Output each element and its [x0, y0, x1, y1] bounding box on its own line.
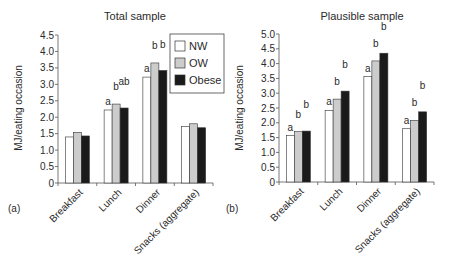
bar-ow-0: [294, 132, 302, 182]
legend-swatch-nw: [175, 41, 185, 51]
significance-letter: b: [373, 38, 379, 49]
y-tick-label: 3.0: [40, 79, 54, 90]
y-tick-label: 4.5: [40, 30, 54, 41]
figure: Total sampleMJ/eating occasion(a)00.51.0…: [0, 0, 450, 276]
bar-nw-0: [65, 137, 73, 183]
legend-label: Obese: [189, 74, 221, 86]
y-tick-label: 3.0: [261, 88, 275, 99]
y-tick-label: 0.5: [261, 162, 275, 173]
bar-obese-3: [198, 128, 206, 183]
x-category-label: Snacks (aggregate): [132, 187, 201, 256]
bar-obese-3: [419, 112, 427, 182]
bar-nw-1: [104, 110, 112, 183]
bar-obese-0: [302, 131, 310, 182]
x-category-label: Snacks (aggregate): [353, 186, 422, 255]
x-category-label: Lunch: [317, 186, 344, 213]
bar-obese-2: [380, 53, 388, 182]
significance-letter: b: [381, 21, 387, 32]
y-tick-label: 2.5: [261, 103, 275, 114]
bar-ow-1: [333, 99, 341, 182]
y-tick-label: 4.0: [261, 58, 275, 69]
bar-ow-2: [151, 63, 159, 183]
chart-panel-b: Plausible sampleMJ/eating occasion(b)00.…: [226, 10, 434, 255]
bar-obese-1: [341, 91, 349, 182]
bar-nw-0: [286, 136, 294, 182]
y-tick-label: 3.5: [261, 73, 275, 84]
x-category-label: Dinner: [355, 185, 384, 214]
legend-swatch-ow: [175, 58, 185, 68]
bar-ow-0: [73, 132, 81, 183]
chart-title: Total sample: [104, 10, 166, 22]
panel-label: (a): [8, 203, 20, 214]
bar-nw-3: [403, 129, 411, 182]
chart-title: Plausible sample: [320, 10, 403, 22]
significance-letter: a: [105, 96, 111, 107]
bar-obese-1: [120, 108, 128, 183]
y-tick-label: 0.5: [40, 161, 54, 172]
y-tick-label: 1.0: [261, 147, 275, 158]
y-axis-label: MJ/eating occasion: [234, 65, 245, 151]
y-tick-label: 2.5: [40, 95, 54, 106]
significance-letter: b: [334, 76, 340, 87]
y-tick-label: 3.5: [40, 62, 54, 73]
significance-letter: a: [326, 96, 332, 107]
x-category-label: Lunch: [96, 187, 123, 214]
significance-letter: a: [365, 63, 371, 74]
significance-letter: a: [144, 63, 150, 74]
y-tick-label: 2.0: [40, 112, 54, 123]
y-tick-label: 1.5: [261, 132, 275, 143]
bar-ow-2: [372, 61, 380, 182]
significance-letter: b: [152, 40, 158, 51]
significance-letter: b: [304, 99, 310, 110]
legend-swatch-obese: [175, 75, 185, 85]
bar-nw-1: [325, 110, 333, 182]
y-axis-label: MJ/eating occasion: [13, 65, 24, 151]
significance-letter: b: [420, 80, 426, 91]
y-tick-label: 4.5: [261, 43, 275, 54]
y-tick-label: 4.0: [40, 46, 54, 57]
significance-letter: a: [288, 122, 294, 133]
significance-letter: ab: [119, 76, 131, 87]
x-category-label: Breakfast: [268, 185, 306, 223]
y-tick-label: 2.0: [261, 117, 275, 128]
bar-nw-2: [143, 77, 151, 183]
bar-ow-3: [190, 124, 198, 183]
bar-obese-0: [81, 136, 89, 183]
bar-ow-3: [411, 120, 419, 182]
bar-obese-2: [159, 71, 167, 183]
bar-chart-figure: Total sampleMJ/eating occasion(a)00.51.0…: [0, 0, 450, 276]
panel-label: (b): [226, 203, 238, 214]
y-tick-label: 1.0: [40, 145, 54, 156]
y-tick-label: 0: [48, 178, 54, 189]
significance-letter: b: [342, 59, 348, 70]
legend-label: OW: [189, 57, 209, 69]
bar-ow-1: [112, 104, 120, 183]
y-tick-label: 1.5: [40, 128, 54, 139]
significance-letter: b: [412, 97, 418, 108]
y-tick-label: 0: [269, 177, 275, 188]
bar-nw-3: [182, 126, 190, 183]
significance-letter: a: [404, 115, 410, 126]
x-category-label: Dinner: [134, 186, 163, 215]
y-tick-label: 5.0: [261, 29, 275, 40]
bar-nw-2: [364, 77, 372, 182]
significance-letter: b: [160, 39, 166, 50]
x-category-label: Breakfast: [47, 186, 85, 224]
legend: NWOWObese: [170, 34, 224, 93]
legend-label: NW: [189, 40, 208, 52]
significance-letter: b: [296, 109, 302, 120]
